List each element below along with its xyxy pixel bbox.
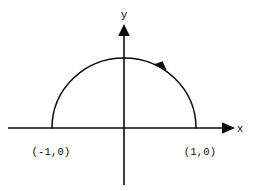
point-label-right: (1,0) bbox=[184, 146, 217, 158]
semicircle-diagram: x y (-1,0) (1,0) bbox=[0, 0, 261, 191]
x-axis-label: x bbox=[237, 123, 244, 135]
point-label-left: (-1,0) bbox=[31, 146, 70, 158]
y-axis-label: y bbox=[121, 9, 128, 21]
figure-container: x y (-1,0) (1,0) bbox=[0, 0, 261, 191]
diagram-background bbox=[0, 0, 261, 191]
